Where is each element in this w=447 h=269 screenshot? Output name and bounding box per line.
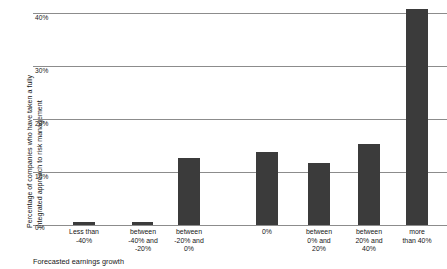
bar-0 — [256, 152, 278, 225]
bar-more-than-40 — [406, 9, 428, 225]
gridline-30 — [33, 66, 447, 67]
bar-less-than-minus-40 — [73, 222, 95, 225]
axis-baseline-0 — [33, 225, 447, 226]
x-label-more-than-40: more than 40% — [387, 228, 447, 245]
y-tick-label-10: 10% — [35, 173, 49, 180]
y-tick-label-30: 30% — [35, 67, 49, 74]
gridline-20 — [33, 119, 447, 120]
y-tick-label-40: 40% — [35, 14, 49, 21]
bar-between-minus40-minus20 — [132, 222, 153, 225]
gridline-40 — [33, 13, 447, 14]
plot-area: 40% 30% 20% 10% 0% — [33, 0, 447, 226]
y-tick-label-20: 20% — [35, 120, 49, 127]
gridline-10 — [33, 172, 447, 173]
x-label-less-than-minus-40: Less than -40% — [54, 228, 114, 245]
bar-chart-figure: Percentage of companies who have taken a… — [0, 0, 447, 269]
bar-between-minus20-0 — [178, 158, 200, 225]
x-label-between-minus20-0: between -20% and 0% — [159, 228, 219, 254]
x-label-0: 0% — [237, 228, 297, 237]
x-axis-title: Forecasted earnings growth — [33, 257, 124, 266]
y-axis-title: Percentage of companies who have taken a… — [0, 0, 30, 232]
bar-between-0-20 — [308, 163, 330, 225]
x-axis-labels: Less than -40% between -40% and -20% bet… — [33, 228, 447, 258]
bar-between-20-40 — [358, 144, 380, 225]
